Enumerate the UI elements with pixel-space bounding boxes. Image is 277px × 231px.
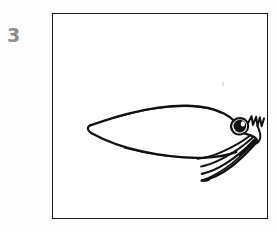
image-frame [52, 13, 268, 219]
page-canvas: 3 [0, 0, 277, 231]
figure-number-label: 3 [7, 22, 31, 48]
eye-highlight [241, 121, 245, 126]
eye-pupil [234, 120, 247, 133]
paper-speck [222, 81, 223, 86]
squid-drawing [53, 14, 267, 218]
mantle-upper-edge-path [90, 106, 234, 126]
short-arm-1-path [248, 116, 258, 125]
short-arm-2-path [257, 117, 264, 126]
squid-figure [88, 106, 264, 181]
